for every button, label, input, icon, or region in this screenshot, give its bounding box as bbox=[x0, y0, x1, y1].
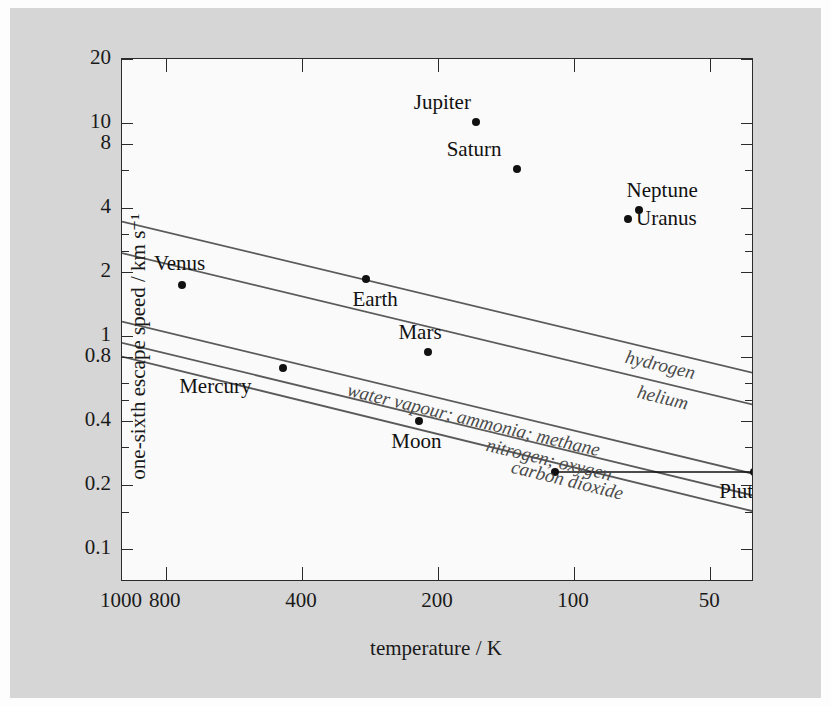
y-tick-label: 10 bbox=[51, 111, 111, 132]
x-tick-label: 200 bbox=[392, 590, 482, 611]
y-tick-label: 20 bbox=[51, 47, 111, 68]
x-tick-label: 100 bbox=[528, 590, 618, 611]
y-tick-label: 0.4 bbox=[51, 409, 111, 430]
y-tick-label: 4 bbox=[51, 196, 111, 217]
y-tick-label: 1 bbox=[51, 324, 111, 345]
x-tick-label: 400 bbox=[256, 590, 346, 611]
x-tick-label: 800 bbox=[120, 590, 210, 611]
y-tick-label: 8 bbox=[51, 132, 111, 153]
y-tick-label: 2 bbox=[51, 260, 111, 281]
figure-container: JupiterSaturnNeptuneUranusEarthVenusMars… bbox=[0, 0, 831, 706]
y-tick-label: 0.8 bbox=[51, 345, 111, 366]
y-axis-title: one-sixth escape speed / km s⁻¹ bbox=[126, 132, 151, 562]
x-axis-title: temperature / K bbox=[281, 636, 591, 661]
y-tick-label: 0.2 bbox=[51, 473, 111, 494]
x-tick-label: 50 bbox=[664, 590, 754, 611]
y-tick-label: 0.1 bbox=[51, 537, 111, 558]
